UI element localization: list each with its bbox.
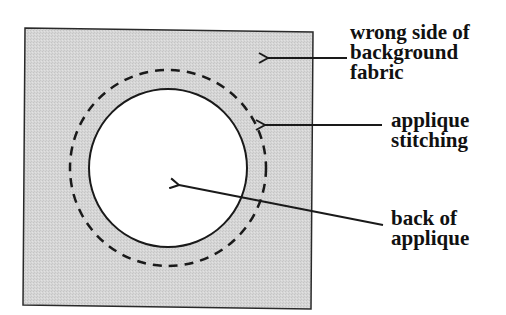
label-line: back of [391,208,469,228]
label-line: applique [391,110,469,130]
label-background-fabric: wrong side of background fabric [350,22,470,82]
applique-circle [89,89,247,247]
label-line: background [350,42,470,62]
label-line: applique [391,228,469,248]
label-applique-stitching: applique stitching [391,110,469,150]
label-line: fabric [350,62,470,82]
label-line: wrong side of [350,22,470,42]
label-back-of-applique: back of applique [391,208,469,248]
label-line: stitching [391,130,469,150]
applique-diagram: wrong side of background fabric applique… [0,0,506,315]
